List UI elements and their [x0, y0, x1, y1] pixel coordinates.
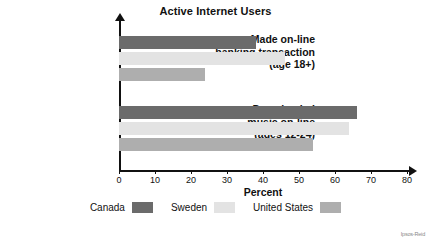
chart-figure: Active Internet Users Made on-line banki… [0, 0, 431, 241]
x-tick-label: 50 [289, 175, 309, 185]
legend-label: United States [253, 202, 313, 213]
x-tick-mark [335, 170, 336, 174]
x-tick-label: 10 [145, 175, 165, 185]
legend-swatch [132, 202, 153, 213]
bar-united-states-group-1 [119, 138, 313, 151]
x-tick-label: 30 [217, 175, 237, 185]
x-tick-mark [155, 170, 156, 174]
chart-legend: CanadaSwedenUnited States [0, 202, 431, 213]
bar-united-states-group-0 [119, 68, 205, 81]
x-tick-mark [263, 170, 264, 174]
x-axis-title: Percent [119, 186, 407, 198]
x-tick-label: 20 [181, 175, 201, 185]
legend-entry-united-states[interactable]: United States [253, 202, 341, 213]
x-tick-mark [119, 170, 120, 174]
top-edge-artifact [0, 0, 431, 4]
x-tick-mark [407, 170, 408, 174]
legend-label: Sweden [171, 202, 207, 213]
chart-title: Active Internet Users [0, 5, 431, 17]
bar-sweden-group-1 [119, 122, 349, 135]
watermark-attribution: Ipsos-Reid [401, 231, 425, 237]
x-tick-mark [191, 170, 192, 174]
legend-swatch [214, 202, 235, 213]
x-tick-mark [227, 170, 228, 174]
legend-entry-sweden[interactable]: Sweden [171, 202, 235, 213]
x-axis-line [119, 170, 411, 172]
y-axis-arrow-icon [115, 13, 125, 21]
bar-canada-group-0 [119, 36, 256, 49]
x-tick-label: 40 [253, 175, 273, 185]
x-tick-label: 80 [397, 175, 417, 185]
x-tick-label: 0 [109, 175, 129, 185]
x-tick-label: 70 [361, 175, 381, 185]
x-tick-label: 60 [325, 175, 345, 185]
bar-sweden-group-0 [119, 52, 285, 65]
bar-canada-group-1 [119, 106, 357, 119]
legend-swatch [320, 202, 341, 213]
x-tick-mark [371, 170, 372, 174]
legend-entry-canada[interactable]: Canada [90, 202, 153, 213]
legend-label: Canada [90, 202, 125, 213]
x-tick-mark [299, 170, 300, 174]
